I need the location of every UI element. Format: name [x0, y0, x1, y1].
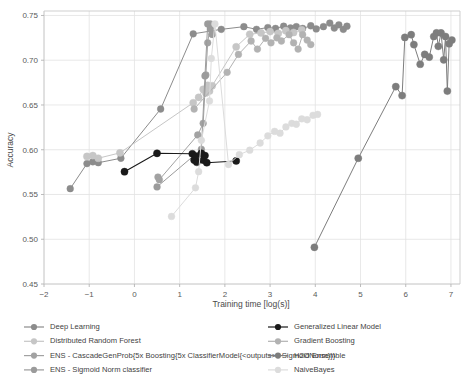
x-tick-label: 1: [177, 290, 182, 299]
series-marker: [311, 244, 318, 251]
series-marker: [95, 155, 102, 162]
y-tick-label: 0.60: [22, 146, 38, 155]
x-tick-label: 5: [358, 290, 363, 299]
series-marker: [314, 111, 321, 118]
series-marker: [254, 46, 261, 53]
legend-marker-swatch: [275, 353, 281, 359]
series-marker: [235, 51, 242, 58]
y-tick-label: 0.75: [22, 11, 38, 20]
series-marker: [313, 26, 320, 33]
x-tick-label: 7: [449, 290, 454, 299]
series-marker: [246, 31, 253, 38]
legend-marker-swatch: [31, 324, 37, 330]
series-marker: [440, 56, 447, 63]
series-marker: [444, 88, 451, 95]
series-marker: [116, 149, 123, 156]
legend-item-label: Gradient Boosting: [294, 336, 355, 345]
legend-item-label: Deep Learning: [50, 322, 100, 331]
series-marker: [299, 31, 306, 38]
series-marker: [67, 185, 74, 192]
x-tick-label: 0: [132, 290, 137, 299]
series-marker: [408, 31, 415, 38]
series-marker: [195, 168, 202, 175]
x-tick-label: −2: [39, 290, 49, 299]
chart-figure: 0.450.500.550.600.650.700.75 −2−10123456…: [0, 0, 474, 378]
series-marker: [240, 23, 247, 30]
series-marker: [192, 184, 199, 191]
series-marker: [417, 61, 424, 68]
legend-item-label: ENS - Sigmoid Norm classifier: [50, 365, 153, 374]
series-marker: [278, 38, 285, 45]
legend-item[interactable]: ENS - CascadeGenProb{5x Boosting{5x Clas…: [24, 351, 336, 360]
series-marker: [195, 94, 202, 101]
legend-marker-swatch: [275, 367, 281, 373]
series-marker: [401, 34, 408, 41]
series-marker: [191, 106, 198, 113]
series-marker: [295, 46, 302, 53]
y-tick-label: 0.45: [22, 280, 38, 289]
series-marker: [156, 176, 163, 183]
legend-marker-swatch: [31, 338, 37, 344]
legend-item-label: Distributed Random Forest: [50, 336, 142, 345]
series-marker: [304, 116, 311, 123]
series-marker: [435, 43, 442, 50]
series-marker: [410, 41, 417, 48]
y-tick-label: 0.70: [22, 56, 38, 65]
legend-item-label: H2O Ensemble: [294, 351, 346, 360]
series-marker: [442, 33, 449, 40]
series-marker: [157, 106, 164, 113]
series-marker: [257, 140, 264, 147]
series-marker: [225, 161, 232, 168]
legend-item-label: NaiveBayes: [294, 365, 335, 374]
series-marker: [266, 28, 273, 35]
series-marker: [168, 213, 175, 220]
series-marker: [344, 23, 351, 30]
series-marker: [233, 43, 240, 50]
series-marker: [154, 183, 161, 190]
accuracy-vs-training-time-chart: 0.450.500.550.600.650.700.75 −2−10123456…: [0, 0, 474, 378]
series-marker: [392, 83, 399, 90]
series-marker: [190, 99, 197, 106]
series-marker: [236, 151, 243, 158]
series-marker: [262, 35, 269, 42]
series-marker: [204, 39, 211, 46]
series-marker: [268, 39, 275, 46]
series-marker: [264, 132, 271, 139]
x-tick-label: −1: [85, 290, 95, 299]
series-marker: [206, 98, 213, 105]
series-marker: [203, 159, 210, 166]
legend-marker-swatch: [275, 324, 281, 330]
series-marker: [212, 21, 219, 28]
x-tick-label: 3: [268, 290, 273, 299]
series-marker: [286, 31, 293, 38]
y-tick-label: 0.55: [22, 190, 38, 199]
series-marker: [201, 152, 208, 159]
x-tick-label: 2: [223, 290, 228, 299]
x-axis-label: Training time [log(s)]: [212, 299, 289, 309]
y-tick-label: 0.65: [22, 101, 38, 110]
series-marker: [448, 36, 455, 43]
series-marker: [153, 150, 160, 157]
series-marker: [293, 121, 300, 128]
legend-marker-swatch: [275, 338, 281, 344]
legend-item-label: ENS - CascadeGenProb{5x Boosting{5x Clas…: [50, 351, 336, 360]
series-marker: [121, 168, 128, 175]
series-marker: [198, 137, 205, 144]
legend-marker-swatch: [31, 353, 37, 359]
series-marker: [283, 124, 290, 131]
series-marker: [208, 55, 215, 62]
series-marker: [246, 147, 253, 154]
series-marker: [399, 92, 406, 99]
series-marker: [202, 72, 209, 79]
series-marker: [224, 69, 231, 76]
series-marker: [290, 39, 297, 46]
series-marker: [218, 26, 225, 33]
series-marker: [277, 130, 284, 137]
series-marker: [248, 38, 255, 45]
series-marker: [426, 54, 433, 61]
x-tick-label: 6: [404, 290, 409, 299]
series-marker: [190, 30, 197, 37]
series-marker: [233, 157, 240, 164]
legend-item-label: Generalized Linear Model: [294, 322, 381, 331]
series-marker: [320, 23, 327, 30]
